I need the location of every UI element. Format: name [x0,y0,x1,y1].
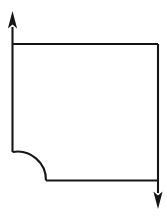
line-diagram [0,0,167,221]
background-rect [0,0,167,221]
diagram-canvas [0,0,167,221]
